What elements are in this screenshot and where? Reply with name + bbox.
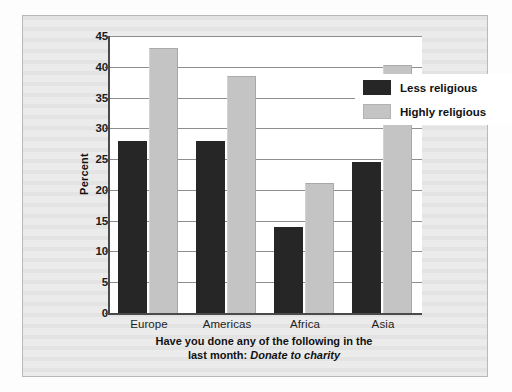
y-tick-label: 0 — [68, 307, 108, 319]
legend: Less religious Highly religious — [355, 74, 512, 125]
y-tick-label: 20 — [68, 184, 108, 196]
x-axis-label-africa: Africa — [266, 318, 344, 330]
y-tick-label: 5 — [68, 276, 108, 288]
figure-page: Percent 051015202530354045 EuropeAmerica… — [0, 0, 512, 392]
x-axis-label-europe: Europe — [110, 318, 188, 330]
y-tick-label: 30 — [68, 122, 108, 134]
y-tick-label: 35 — [68, 92, 108, 104]
legend-label-highly-religious: Highly religious — [400, 106, 486, 118]
legend-swatch-icon-highly-religious — [363, 104, 391, 119]
legend-item-highly-religious[interactable]: Highly religious — [363, 104, 512, 119]
bar-europe-less-religious[interactable] — [118, 141, 147, 313]
bar-americas-less-religious[interactable] — [196, 141, 225, 313]
bar-africa-less-religious[interactable] — [274, 227, 303, 313]
bar-group — [188, 36, 266, 313]
bar-europe-highly-religious[interactable] — [149, 48, 178, 313]
bar-americas-highly-religious[interactable] — [227, 76, 256, 313]
caption-line-2-prefix: last month: — [188, 349, 250, 361]
bar-group — [110, 36, 188, 313]
y-tick-label: 45 — [68, 30, 108, 42]
y-tick-label: 15 — [68, 215, 108, 227]
legend-swatch-icon-less-religious — [363, 80, 391, 95]
x-axis-label-americas: Americas — [188, 318, 266, 330]
legend-label-less-religious: Less religious — [400, 82, 477, 94]
chart-caption: Have you done any of the following in th… — [108, 334, 420, 362]
caption-line-1: Have you done any of the following in th… — [156, 335, 373, 347]
y-tick-label: 40 — [68, 61, 108, 73]
y-tick-label: 25 — [68, 153, 108, 165]
x-axis-label-asia: Asia — [344, 318, 422, 330]
plot-area: 051015202530354045 EuropeAmericasAfricaA… — [108, 36, 422, 315]
bar-africa-highly-religious[interactable] — [305, 183, 334, 313]
bar-group — [266, 36, 344, 313]
legend-item-less-religious[interactable]: Less religious — [363, 80, 512, 95]
y-tick-label: 10 — [68, 245, 108, 257]
caption-line-2-emphasis: Donate to charity — [250, 349, 340, 361]
bar-asia-less-religious[interactable] — [352, 162, 381, 313]
y-tick-mark — [105, 313, 110, 314]
